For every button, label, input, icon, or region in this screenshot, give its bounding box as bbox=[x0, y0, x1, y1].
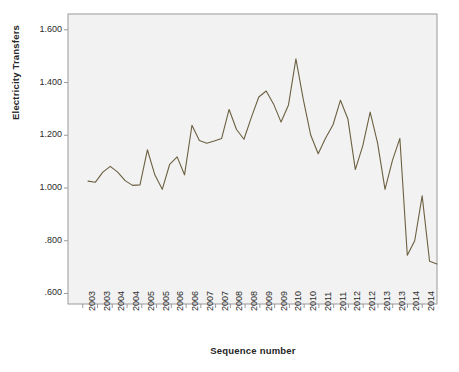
x-tick-label: 2011 bbox=[323, 292, 333, 311]
x-tick-label: 2005 bbox=[146, 291, 156, 311]
x-tick-label: 2003 bbox=[102, 291, 112, 311]
x-tick-label: 2007 bbox=[220, 291, 230, 311]
x-tick-label: 2007 bbox=[205, 291, 215, 311]
x-tick-label: 2009 bbox=[264, 291, 274, 311]
x-tick-label: 2008 bbox=[249, 291, 259, 311]
x-tick-label: 2012 bbox=[352, 291, 362, 311]
x-tick-label: 2008 bbox=[234, 291, 244, 311]
x-tick-label: 2011 bbox=[338, 292, 348, 311]
x-tick-label: 2004 bbox=[131, 291, 141, 311]
x-tick-label: 2010 bbox=[308, 291, 318, 311]
x-tick-label: 2014 bbox=[426, 291, 436, 311]
x-tick-label: 2014 bbox=[411, 291, 421, 311]
x-tick-label: 2009 bbox=[279, 291, 289, 311]
y-axis-title: Electricity Transfers bbox=[10, 0, 21, 120]
x-tick-label: 2010 bbox=[293, 291, 303, 311]
x-tick-label: 2013 bbox=[382, 291, 392, 311]
x-tick-label: 2006 bbox=[190, 291, 200, 311]
x-tick-label: 2012 bbox=[367, 291, 377, 311]
x-tick-label: 2005 bbox=[161, 291, 171, 311]
x-tick-label: 2006 bbox=[175, 291, 185, 311]
x-tick-label: 2003 bbox=[87, 291, 97, 311]
x-axis-tick-labels: 2003200320042004200520052006200620072007… bbox=[0, 0, 459, 372]
chart-figure: 1.6001.4001.2001.000.800.600 20032003200… bbox=[0, 0, 459, 372]
x-tick-label: 2004 bbox=[116, 291, 126, 311]
x-axis-title: Sequence number bbox=[68, 345, 438, 356]
x-tick-label: 2013 bbox=[397, 291, 407, 311]
